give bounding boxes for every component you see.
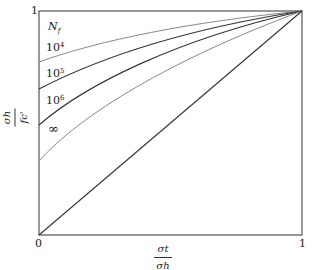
x-label-numerator: σt xyxy=(158,244,169,254)
diagonal-line xyxy=(39,11,302,235)
fraction-bar xyxy=(154,257,172,258)
curve-1e5 xyxy=(39,11,302,89)
x-tick-0: 0 xyxy=(35,238,42,249)
legend-title: Nf xyxy=(48,21,60,35)
fraction-bar xyxy=(15,109,16,127)
x-label-denominator: σh xyxy=(156,261,169,270)
curve-infinity xyxy=(39,11,302,161)
y-axis-label: σh fc' xyxy=(2,109,29,127)
label-infinity: ∞ xyxy=(48,122,59,135)
label-1e5: 105 xyxy=(46,68,64,79)
curve-1e4 xyxy=(39,11,302,62)
label-1e4: 104 xyxy=(46,42,64,53)
y-tick-1: 1 xyxy=(31,5,38,16)
label-1e6: 106 xyxy=(46,95,64,106)
y-label-denominator: fc' xyxy=(19,111,29,123)
x-axis-label: σt σh xyxy=(154,244,172,270)
y-label-numerator: σh xyxy=(2,111,12,124)
x-tick-1: 1 xyxy=(299,238,306,249)
